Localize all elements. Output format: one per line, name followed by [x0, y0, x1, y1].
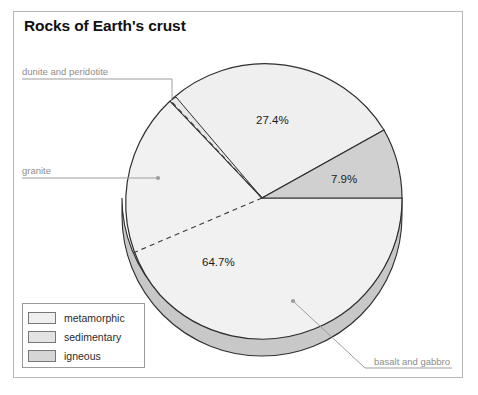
slice-value-igneous: 64.7%	[202, 256, 235, 268]
legend-item-igneous[interactable]: igneous	[28, 349, 101, 363]
legend-swatch-igneous	[28, 350, 56, 362]
legend-item-sedimentary[interactable]: sedimentary	[28, 330, 121, 344]
legend-item-metamorphic[interactable]: metamorphic	[28, 311, 125, 325]
callout-label-granite: granite	[22, 165, 51, 176]
legend: metamorphic sedimentary igneous	[22, 303, 145, 368]
slice-value-metamorphic: 27.4%	[256, 114, 289, 126]
leader-dot-granite	[156, 176, 160, 180]
legend-swatch-sedimentary	[28, 331, 56, 343]
leader-dot-basalt-and-gabbro	[291, 299, 295, 303]
legend-swatch-metamorphic	[28, 312, 56, 324]
legend-label-sedimentary: sedimentary	[64, 331, 121, 343]
chart-page: Rocks of Earth's crust 27.4% 7.9% 64.7% …	[0, 0, 478, 395]
leader-line-dunite-and-peridotite	[22, 79, 172, 99]
callout-label-basalt-and-gabbro: basalt and gabbro	[374, 356, 450, 367]
callout-label-dunite-and-peridotite: dunite and peridotite	[22, 66, 108, 77]
legend-label-metamorphic: metamorphic	[64, 312, 125, 324]
legend-label-igneous: igneous	[64, 350, 101, 362]
slice-value-sedimentary: 7.9%	[331, 173, 357, 185]
